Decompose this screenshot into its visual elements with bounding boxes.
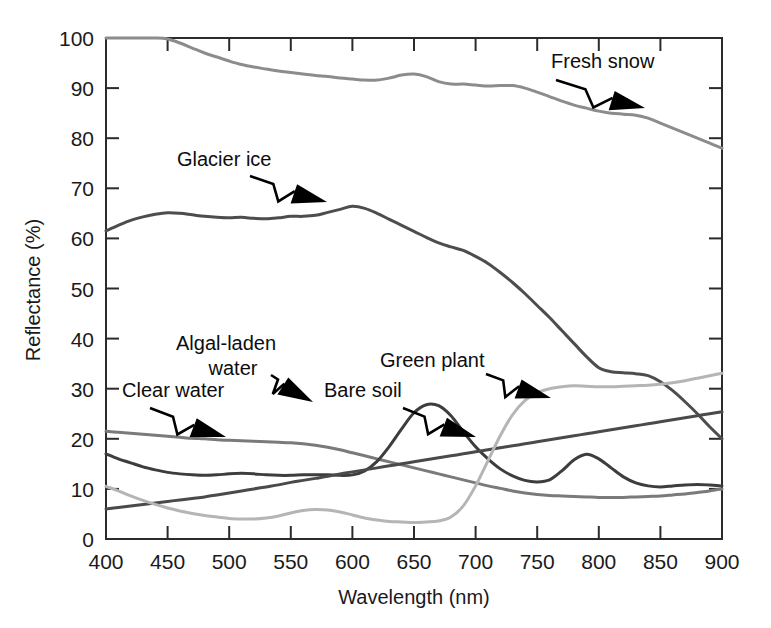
annotation-arrowhead-clear-water <box>190 418 226 437</box>
reflectance-chart: 0102030405060708090100 40045050055060065… <box>0 0 771 628</box>
annotation-label-glacier-ice: Glacier ice <box>177 148 271 170</box>
x-tick-label-500: 500 <box>212 550 247 573</box>
y-tick-label-80: 80 <box>71 127 94 150</box>
y-tick-label-50: 50 <box>71 278 94 301</box>
data-series-group <box>106 38 722 523</box>
x-tick-label-800: 800 <box>581 550 616 573</box>
y-tick-label-10: 10 <box>71 478 94 501</box>
annotation-bare-soil: Bare soil <box>324 379 476 437</box>
x-tick-label-700: 700 <box>458 550 493 573</box>
x-tick-label-900: 900 <box>704 550 739 573</box>
y-tick-label-0: 0 <box>82 528 94 551</box>
annotation-glacier-ice: Glacier ice <box>177 148 327 203</box>
annotation-arrowhead-fresh-snow <box>609 91 645 110</box>
x-tick-label-450: 450 <box>150 550 185 573</box>
annotation-arrowhead-bare-soil <box>440 418 476 437</box>
annotation-leader-clear-water <box>150 408 194 435</box>
y-tick-label-20: 20 <box>71 428 94 451</box>
spectral-reflectance-figure: 0102030405060708090100 40045050055060065… <box>0 0 771 628</box>
x-tick-label-400: 400 <box>88 550 123 573</box>
x-tick-label-750: 750 <box>520 550 555 573</box>
annotation-arrowhead-algal-laden-water <box>277 378 313 402</box>
y-tick-label-90: 90 <box>71 77 94 100</box>
annotation-label-algal-laden-water: water <box>208 357 258 379</box>
annotation-label-green-plant: Green plant <box>380 349 485 371</box>
annotation-clear-water: Clear water <box>122 379 226 437</box>
x-axis-title: Wavelength (nm) <box>338 586 490 608</box>
series-line-algal-laden-water <box>106 404 722 487</box>
y-tick-label-70: 70 <box>71 177 94 200</box>
annotation-label-bare-soil: Bare soil <box>324 379 402 401</box>
annotation-label-algal-laden-water: Algal-laden <box>176 332 276 354</box>
y-tick-label-100: 100 <box>59 27 94 50</box>
series-line-glacier-ice <box>106 206 722 438</box>
annotation-leader-glacier-ice <box>250 176 295 201</box>
y-tick-label-40: 40 <box>71 328 94 351</box>
x-axis-tick-labels: 400450500550600650700750800850900 <box>88 550 739 573</box>
y-tick-label-30: 30 <box>71 378 94 401</box>
x-tick-label-600: 600 <box>335 550 370 573</box>
y-tick-label-60: 60 <box>71 227 94 250</box>
annotation-arrowhead-glacier-ice <box>291 184 327 203</box>
annotation-label-clear-water: Clear water <box>122 379 225 401</box>
y-axis-tick-labels: 0102030405060708090100 <box>59 27 94 551</box>
x-tick-label-550: 550 <box>273 550 308 573</box>
annotation-group: Fresh snowGlacier iceAlgal-ladenwaterCle… <box>122 50 655 437</box>
annotation-label-fresh-snow: Fresh snow <box>551 50 655 72</box>
annotation-leader-green-plant <box>486 374 519 397</box>
x-tick-label-650: 650 <box>396 550 431 573</box>
x-axis-ticks <box>168 38 661 539</box>
annotation-green-plant: Green plant <box>380 349 551 398</box>
series-line-clear-water <box>106 431 722 497</box>
y-axis-title: Reflectance (%) <box>22 219 44 361</box>
x-tick-label-850: 850 <box>643 550 678 573</box>
annotation-leader-bare-soil <box>403 408 444 434</box>
